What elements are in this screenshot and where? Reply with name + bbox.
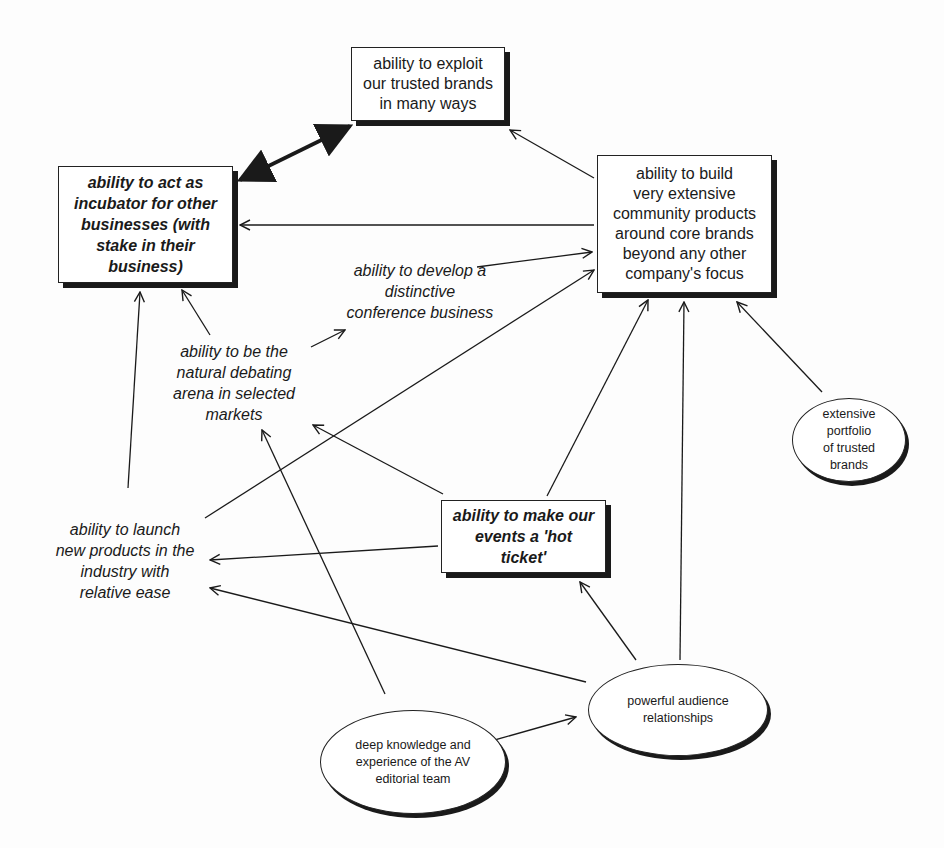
edge-debating-incubator xyxy=(182,290,210,335)
node-launch-products: ability to launch new products in the in… xyxy=(40,518,210,604)
node-label: ability to exploit our trusted brands in… xyxy=(363,54,493,114)
node-label: ability to be the natural debating arena… xyxy=(173,341,295,425)
edge-hotticket-debating xyxy=(313,425,443,494)
strategy-map-canvas: ability to exploit our trusted brands in… xyxy=(0,0,944,848)
node-label: ability to make our events a 'hot ticket… xyxy=(453,505,594,568)
node-community-products: ability to build very extensive communit… xyxy=(597,155,772,293)
node-label: powerful audience relationships xyxy=(627,693,728,727)
node-label: ability to act as incubator for other bu… xyxy=(74,172,217,277)
node-conference-business: ability to develop a distinctive confere… xyxy=(330,258,510,324)
node-label: deep knowledge and experience of the AV … xyxy=(355,737,470,788)
edge-launch-incubator xyxy=(128,292,140,488)
node-incubator: ability to act as incubator for other bu… xyxy=(58,166,233,283)
node-debating-arena: ability to be the natural debating arena… xyxy=(160,340,308,426)
node-audience-relationships: powerful audience relationships xyxy=(588,664,768,756)
node-hot-ticket: ability to make our events a 'hot ticket… xyxy=(441,500,606,573)
edge-debating-conference xyxy=(311,330,345,347)
edge-audience-hotticket xyxy=(580,582,636,660)
node-label: ability to develop a distinctive confere… xyxy=(347,260,494,323)
edge-hotticket-community xyxy=(547,300,648,496)
edge-audience-launch xyxy=(210,588,586,682)
edge-portfolio-community xyxy=(737,302,822,392)
node-label: extensive portfolio of trusted brands xyxy=(803,406,895,474)
node-editorial-knowledge: deep knowledge and experience of the AV … xyxy=(320,710,506,814)
edge-community-exploit xyxy=(510,130,594,178)
edge-hotticket-launch xyxy=(210,546,438,560)
node-label: ability to build very extensive communit… xyxy=(613,164,756,284)
node-label: ability to launch new products in the in… xyxy=(56,519,195,603)
node-exploit-brands: ability to exploit our trusted brands in… xyxy=(351,47,505,121)
edge-knowledge-audience xyxy=(484,717,576,743)
edge-incubator-exploit xyxy=(240,126,350,180)
edge-audience-community xyxy=(680,302,684,660)
node-trusted-brands-portfolio: extensive portfolio of trusted brands xyxy=(792,398,906,482)
edge-knowledge-debating xyxy=(262,430,385,694)
